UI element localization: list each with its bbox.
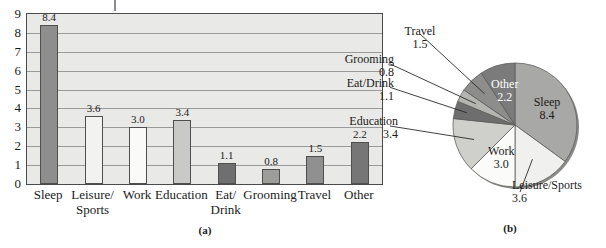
pie-slice-label: Work 3.0 bbox=[456, 145, 546, 171]
bar-slot: 3.6 bbox=[71, 14, 115, 184]
pie-slice-label: Other 2.2 bbox=[460, 78, 550, 104]
y-axis-tick-label: 4 bbox=[15, 101, 22, 114]
y-axis-tick-label: 5 bbox=[15, 83, 22, 96]
bar-slot: 8.4 bbox=[27, 14, 71, 184]
bar-value-label: 3.6 bbox=[87, 103, 101, 114]
bar-slot: 3.0 bbox=[116, 14, 160, 184]
bar-value-label: 0.8 bbox=[264, 156, 278, 167]
y-axis-tick-label: 1 bbox=[15, 158, 22, 171]
bar[interactable] bbox=[218, 163, 236, 184]
category-label: Other bbox=[321, 187, 396, 202]
bar[interactable] bbox=[173, 120, 191, 184]
bar[interactable] bbox=[40, 25, 58, 184]
y-axis-tick-label: 6 bbox=[15, 64, 22, 77]
bar-chart-category-labels: SleepLeisure/ SportsWorkEducationEat/ Dr… bbox=[26, 187, 383, 223]
pie-callout-leader-line bbox=[390, 86, 467, 113]
y-axis-tick-label: 9 bbox=[15, 7, 22, 20]
y-axis-tick-label: 3 bbox=[15, 120, 22, 133]
pie-slice-callout-label: Leisure/Sports 3.6 bbox=[512, 179, 606, 205]
bar-chart-y-axis-tick-labels: 0123456789 bbox=[0, 5, 24, 193]
panel-b-caption: (b) bbox=[480, 222, 540, 234]
pie-chart-figure: (b) Sleep 8.4Leisure/Sports 3.6Work 3.0E… bbox=[390, 0, 606, 248]
bar-value-label: 3.0 bbox=[131, 114, 145, 125]
bar-slot: 3.4 bbox=[160, 14, 204, 184]
pie-slice-callout-label: Education 3.4 bbox=[286, 115, 398, 141]
bar-value-label: 1.1 bbox=[220, 150, 234, 161]
bar-value-label: 8.4 bbox=[42, 12, 56, 23]
pie-slice-callout-label: Grooming 0.8 bbox=[282, 53, 394, 79]
y-axis-tick-label: 2 bbox=[15, 139, 22, 152]
pie-slice-callout-label: Eat/Drink 1.1 bbox=[282, 77, 394, 103]
bar[interactable] bbox=[351, 142, 369, 184]
y-axis-tick-label: 8 bbox=[15, 26, 22, 39]
pie-slice-callout-label: Travel 1.5 bbox=[364, 25, 476, 51]
bar[interactable] bbox=[262, 169, 280, 184]
bar-value-label: 3.4 bbox=[175, 107, 189, 118]
bar[interactable] bbox=[85, 116, 103, 184]
bar[interactable] bbox=[306, 156, 324, 184]
bar-slot: 1.1 bbox=[205, 14, 249, 184]
bar-value-label: 1.5 bbox=[309, 143, 323, 154]
y-axis-tick-label: 7 bbox=[15, 45, 22, 58]
panel-a-caption: (a) bbox=[0, 224, 410, 236]
bar[interactable] bbox=[129, 127, 147, 184]
